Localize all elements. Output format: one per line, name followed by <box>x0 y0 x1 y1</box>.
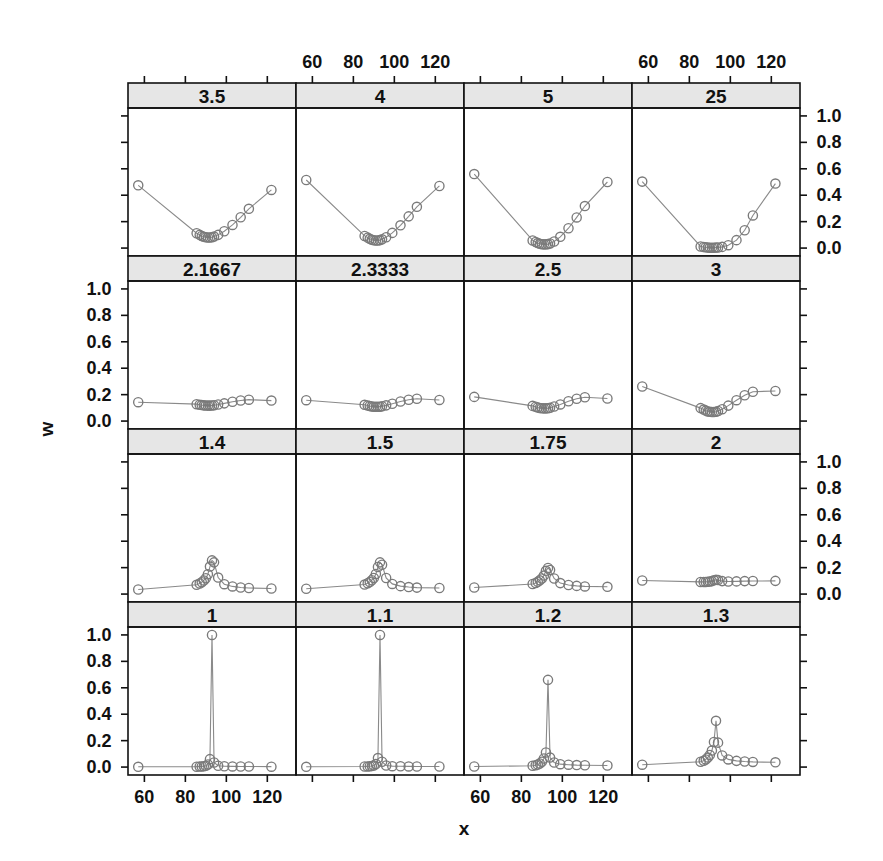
panel-series-1.2 <box>470 675 612 771</box>
x-tick-label: 120 <box>252 787 282 808</box>
strip-label-3.5: 3.5 <box>199 86 225 108</box>
strip-label-1.5: 1.5 <box>367 432 393 454</box>
data-point <box>435 181 444 190</box>
y-tick-label: 0.6 <box>86 677 111 698</box>
panel-series-3.5 <box>134 181 276 242</box>
y-tick-label: 0.0 <box>86 411 111 432</box>
panel-frame <box>632 108 800 256</box>
data-point <box>603 177 612 186</box>
y-tick-label: 0.2 <box>816 557 841 578</box>
data-point <box>771 179 780 188</box>
trellis-plot <box>0 0 883 861</box>
x-axis-title: x <box>459 818 470 840</box>
x-tick-label: 80 <box>511 787 531 808</box>
y-tick-label: 0.0 <box>816 584 841 605</box>
series-line <box>138 635 271 767</box>
panel-series-2.1667 <box>134 395 276 410</box>
panel-series-2.3333 <box>302 394 444 411</box>
y-tick-label: 0.6 <box>86 331 111 352</box>
series-line <box>138 185 271 237</box>
panel-frame <box>296 454 464 602</box>
panel-series-3 <box>638 382 780 417</box>
strip-label-1.75: 1.75 <box>530 432 567 454</box>
y-tick-label: 0.8 <box>86 651 111 672</box>
panel-series-1.75 <box>470 563 612 592</box>
x-tick-label: 100 <box>211 787 241 808</box>
strip-label-25: 25 <box>705 86 726 108</box>
y-tick-label: 0.4 <box>816 531 841 552</box>
x-tick-label: 80 <box>679 52 699 73</box>
y-tick-label: 0.8 <box>816 132 841 153</box>
strip-label-1.3: 1.3 <box>703 605 729 627</box>
panel-series-1.5 <box>302 558 444 594</box>
panel-series-5 <box>470 169 612 248</box>
strip-label-2: 2 <box>711 432 722 454</box>
strip-label-2.5: 2.5 <box>535 259 561 281</box>
y-tick-label: 0.4 <box>816 185 841 206</box>
x-tick-label: 120 <box>588 787 618 808</box>
panel-series-1.4 <box>134 556 276 594</box>
y-tick-label: 1.0 <box>816 451 841 472</box>
panel-series-25 <box>638 177 780 252</box>
strip-label-4: 4 <box>375 86 386 108</box>
panel-series-1 <box>134 630 276 771</box>
strip-label-1.1: 1.1 <box>367 605 393 627</box>
x-tick-label: 100 <box>379 52 409 73</box>
strip-label-1.4: 1.4 <box>199 432 225 454</box>
y-tick-label: 0.6 <box>816 158 841 179</box>
x-tick-label: 60 <box>638 52 658 73</box>
data-point <box>134 181 143 190</box>
y-tick-label: 0.8 <box>86 305 111 326</box>
series-line <box>642 182 775 248</box>
strip-label-5: 5 <box>543 86 554 108</box>
y-tick-label: 0.4 <box>86 704 111 725</box>
y-tick-label: 0.2 <box>816 211 841 232</box>
panel-series-1.1 <box>302 630 444 771</box>
strip-label-1: 1 <box>207 605 218 627</box>
y-axis-title: w <box>36 422 58 437</box>
strip-label-2.3333: 2.3333 <box>351 259 409 281</box>
y-tick-label: 1.0 <box>86 624 111 645</box>
y-tick-label: 0.0 <box>86 757 111 778</box>
panel-frame <box>128 454 296 602</box>
y-tick-label: 0.2 <box>86 730 111 751</box>
y-tick-label: 0.0 <box>816 238 841 259</box>
data-point <box>302 175 311 184</box>
x-tick-label: 60 <box>134 787 154 808</box>
x-tick-label: 100 <box>715 52 745 73</box>
panel-series-1.3 <box>638 716 780 769</box>
panel-series-2 <box>638 575 780 586</box>
strip-label-2.1667: 2.1667 <box>183 259 241 281</box>
y-tick-label: 1.0 <box>816 105 841 126</box>
y-tick-label: 0.6 <box>816 504 841 525</box>
panel-series-2.5 <box>470 392 612 413</box>
x-tick-label: 80 <box>343 52 363 73</box>
y-tick-label: 0.2 <box>86 384 111 405</box>
x-tick-label: 100 <box>547 787 577 808</box>
x-tick-label: 120 <box>756 52 786 73</box>
x-tick-label: 60 <box>470 787 490 808</box>
panel-frame <box>464 454 632 602</box>
y-tick-label: 0.8 <box>816 478 841 499</box>
x-tick-label: 80 <box>175 787 195 808</box>
panel-series-4 <box>302 175 444 245</box>
y-tick-label: 0.4 <box>86 358 111 379</box>
x-tick-label: 120 <box>420 52 450 73</box>
strip-label-1.2: 1.2 <box>535 605 561 627</box>
strip-label-3: 3 <box>711 259 722 281</box>
x-tick-label: 60 <box>302 52 322 73</box>
series-line <box>306 635 439 767</box>
y-tick-label: 1.0 <box>86 278 111 299</box>
